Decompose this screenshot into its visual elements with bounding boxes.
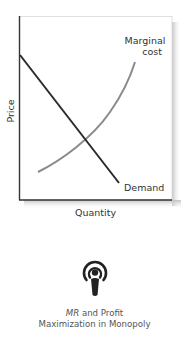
podcast-title[interactable]: MR and Profit Maximization in Monopoly: [0, 308, 189, 330]
economics-chart: Price Quantity Marginal cost Demand: [0, 0, 189, 230]
marginal-cost-label: Marginal cost: [124, 35, 166, 57]
podcast-title-rest: and Profit: [79, 308, 123, 318]
x-axis-label: Quantity: [19, 207, 172, 218]
y-axis-label-text: Price: [5, 99, 16, 122]
podcast-title-line2: Maximization in Monopoly: [0, 319, 189, 330]
demand-label: Demand: [124, 182, 164, 193]
podcast-title-italic: MR: [66, 308, 79, 318]
podcast-title-line1: MR and Profit: [0, 308, 189, 319]
marginal-cost-label-line1: Marginal: [124, 35, 166, 46]
podcast-card[interactable]: MR and Profit Maximization in Monopoly: [0, 258, 189, 330]
y-axis-label: Price: [0, 96, 20, 126]
frame-shadow-right: [172, 22, 181, 206]
podcast-icon[interactable]: [80, 258, 110, 302]
marginal-cost-label-line2: cost: [124, 46, 166, 57]
